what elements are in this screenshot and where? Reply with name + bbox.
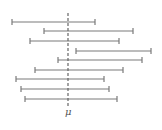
mean-label: μ [65, 106, 72, 117]
confidence-intervals-diagram [0, 0, 162, 130]
